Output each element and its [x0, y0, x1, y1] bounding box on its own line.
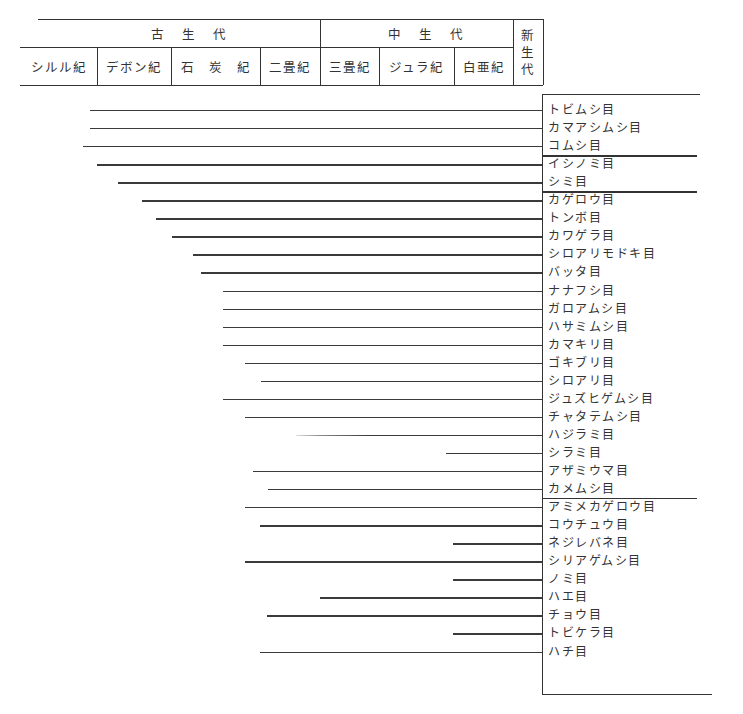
range-line — [245, 507, 542, 508]
order-label: カメムシ目 — [548, 482, 616, 496]
order-label: トビムシ目 — [548, 103, 616, 117]
range-line — [223, 291, 542, 292]
order-label: カマキリ目 — [548, 338, 616, 352]
era-1: 中生代 — [320, 19, 531, 47]
order-label: チャタテムシ目 — [548, 410, 643, 424]
range-line — [261, 381, 542, 382]
header-bottom-extension — [543, 94, 700, 95]
order-label: ジュズヒゲムシ目 — [548, 392, 654, 406]
range-line — [453, 579, 542, 580]
range-line — [267, 615, 542, 616]
range-line — [142, 200, 542, 201]
range-line — [245, 561, 542, 562]
range-line — [453, 633, 542, 634]
range-line — [223, 327, 542, 328]
period-6: 白亜紀 — [454, 47, 513, 85]
order-label: ネジレバネ目 — [548, 536, 629, 550]
range-line — [260, 652, 542, 653]
range-line — [223, 399, 542, 400]
period-border — [260, 47, 261, 85]
order-label: ノミ目 — [548, 572, 589, 586]
bracket-vertical-line — [542, 94, 543, 695]
order-label: トンボ目 — [548, 211, 602, 225]
order-label: シリアゲムシ目 — [548, 554, 642, 568]
order-label: コムシ目 — [548, 139, 602, 153]
period-border — [320, 47, 321, 85]
order-label: ハチ目 — [548, 645, 589, 659]
order-label: シラミ目 — [548, 446, 602, 460]
order-label: カマアシムシ目 — [548, 121, 643, 135]
era-char: 生 — [521, 44, 535, 61]
range-line — [156, 218, 542, 219]
order-label: ナナフシ目 — [548, 284, 616, 298]
era-char: 新 — [521, 27, 535, 44]
range-line — [245, 417, 542, 418]
range-line — [97, 164, 542, 165]
order-label: チョウ目 — [548, 608, 602, 622]
period-border — [171, 47, 172, 85]
period-border — [97, 47, 98, 85]
range-line — [193, 254, 542, 255]
period-1: デボン紀 — [97, 47, 171, 85]
order-label: ハエ目 — [548, 590, 589, 604]
header-bottom-border — [20, 85, 543, 86]
range-line — [320, 597, 542, 598]
period-0: シルル紀 — [20, 47, 97, 85]
bracket-bottom-line — [542, 694, 712, 695]
range-line — [446, 453, 542, 454]
range-line — [245, 363, 542, 364]
range-line — [260, 525, 542, 526]
range-line — [253, 471, 542, 472]
order-label: ハジラミ目 — [548, 428, 616, 442]
range-line — [172, 236, 542, 237]
era-cenozoic: 新生代 — [513, 19, 543, 85]
era-border — [513, 19, 514, 85]
period-3: 二畳紀 — [260, 47, 320, 85]
order-label: イシノミ目 — [548, 157, 616, 171]
era-border — [543, 19, 544, 85]
range-line — [223, 309, 542, 310]
order-label: シロアリモドキ目 — [548, 247, 656, 261]
range-line — [223, 345, 542, 346]
order-label: バッタ目 — [548, 265, 602, 279]
order-label: コウチュウ目 — [548, 518, 629, 532]
order-label: トビケラ目 — [548, 626, 616, 640]
period-5: ジュラ紀 — [379, 47, 454, 85]
order-label: カワゲラ目 — [548, 229, 616, 243]
range-line — [453, 543, 542, 544]
order-label: ハサミムシ目 — [548, 320, 629, 334]
range-line — [90, 110, 542, 111]
range-line — [268, 489, 542, 490]
order-label: アザミウマ目 — [548, 464, 629, 478]
order-label: シロアリ目 — [548, 374, 616, 388]
range-line — [201, 272, 542, 273]
range-line — [83, 146, 542, 147]
group-divider — [542, 191, 697, 192]
order-label: ガロアムシ目 — [548, 302, 628, 316]
era-char: 代 — [521, 61, 535, 78]
range-line — [90, 128, 542, 129]
period-border — [379, 47, 380, 85]
era-0: 古生代 — [38, 19, 338, 47]
group-divider — [542, 155, 697, 156]
order-label: シミ目 — [548, 175, 589, 189]
order-label: ゴキブリ目 — [548, 356, 616, 370]
period-2: 石 炭 紀 — [171, 47, 260, 85]
range-line — [118, 182, 542, 183]
period-4: 三畳紀 — [320, 47, 379, 85]
range-line — [296, 435, 542, 436]
order-label: アミメカゲロウ目 — [548, 500, 656, 514]
group-divider — [542, 498, 697, 499]
period-border — [454, 47, 455, 85]
order-label: カゲロウ目 — [548, 193, 616, 207]
